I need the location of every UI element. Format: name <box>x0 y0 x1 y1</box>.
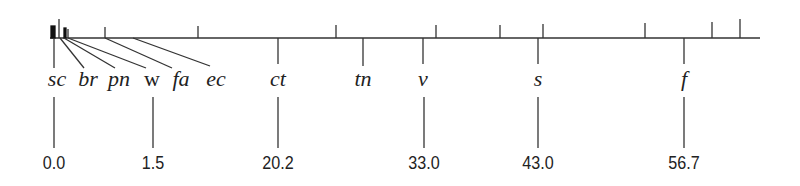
value-5: 56.7 <box>668 152 699 174</box>
symbol-v: v <box>418 66 428 92</box>
symbol-sc: sc <box>48 66 66 92</box>
symbol-f: f <box>681 66 687 92</box>
symbol-br: br <box>78 66 98 92</box>
value-2: 20.2 <box>262 152 293 174</box>
symbol-ec: ec <box>206 66 226 92</box>
symbol-tn: tn <box>354 66 371 92</box>
value-4: 43.0 <box>522 152 553 174</box>
symbol-pn: pn <box>108 66 130 92</box>
symbol-fa: fa <box>172 66 189 92</box>
value-3: 33.0 <box>408 152 439 174</box>
symbol-s: s <box>534 66 543 92</box>
symbol-w: w <box>144 66 160 92</box>
value-0: 0.0 <box>43 152 65 174</box>
origin-block <box>51 26 55 38</box>
symbol-ct: ct <box>270 66 286 92</box>
value-1: 1.5 <box>142 152 164 174</box>
